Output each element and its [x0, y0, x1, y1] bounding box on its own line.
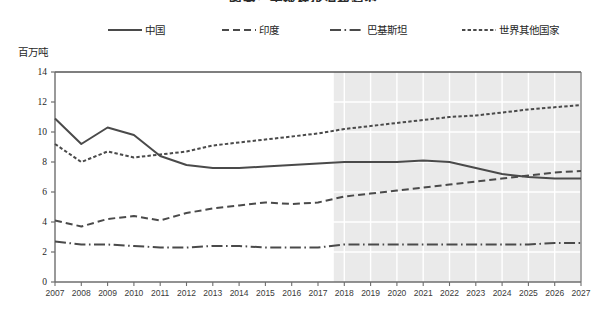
x-axis-tick-label: 2012: [177, 288, 196, 298]
x-axis-tick-label: 2013: [203, 288, 222, 298]
x-axis-tick-label: 2027: [572, 288, 591, 298]
y-axis-tick-label: 6: [42, 187, 47, 197]
x-axis-tick-label: 2025: [519, 288, 538, 298]
y-axis-tick-label: 0: [42, 277, 47, 287]
x-axis-tick-label: 2009: [98, 288, 117, 298]
x-axis-tick-label: 2010: [124, 288, 143, 298]
x-axis-tick-label: 2019: [361, 288, 380, 298]
y-axis-tick-label: 14: [38, 67, 48, 77]
x-axis-tick-label: 2008: [72, 288, 91, 298]
x-axis-tick-label: 2024: [493, 288, 512, 298]
x-axis-tick-label: 2015: [256, 288, 275, 298]
y-axis-tick-label: 2: [42, 247, 47, 257]
y-axis-tick-label: 10: [38, 127, 48, 137]
x-axis-tick-label: 2020: [387, 288, 406, 298]
plot-area: 0246810121420072008200920102011201220132…: [0, 0, 607, 314]
x-axis-tick-label: 2011: [151, 288, 170, 298]
y-axis-tick-label: 4: [42, 217, 47, 227]
x-axis-tick-label: 2017: [309, 288, 328, 298]
x-axis-tick-label: 2022: [440, 288, 459, 298]
x-axis-tick-label: 2014: [230, 288, 249, 298]
x-axis-tick-label: 2018: [335, 288, 354, 298]
x-axis-tick-label: 2007: [46, 288, 65, 298]
x-axis-tick-label: 2021: [414, 288, 433, 298]
x-axis-tick-label: 2023: [466, 288, 485, 298]
cotton-consumption-line-chart: 图表：全球棉花消费趋势 中国 印度 巴基斯坦 世界其他国家 百万吨: [0, 0, 607, 314]
y-axis-tick-label: 8: [42, 157, 47, 167]
y-axis-tick-label: 12: [38, 97, 48, 107]
x-axis-tick-label: 2016: [282, 288, 301, 298]
x-axis-tick-label: 2026: [545, 288, 564, 298]
